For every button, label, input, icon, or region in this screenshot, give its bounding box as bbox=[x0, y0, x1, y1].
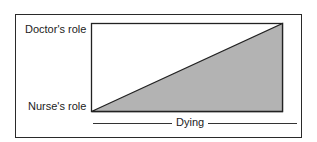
nurse-role-label: Nurse's role bbox=[28, 100, 86, 112]
dying-axis-label: Dying bbox=[172, 116, 208, 128]
doctor-role-label: Doctor's role bbox=[25, 23, 86, 35]
doctor-role-area bbox=[92, 24, 283, 112]
role-diagram bbox=[0, 0, 317, 142]
